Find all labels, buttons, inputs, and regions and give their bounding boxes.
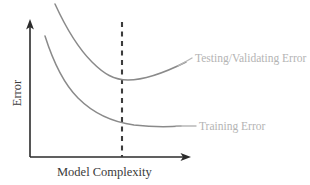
x-axis (30, 153, 191, 161)
training-error-label: Training Error (199, 120, 266, 133)
plot-canvas: Testing/Validating Error Training Error … (0, 0, 310, 185)
testing-error-leader-line (178, 58, 192, 66)
x-axis-label: Model Complexity (57, 165, 153, 179)
testing-error-curve (55, 4, 186, 80)
y-axis (26, 19, 34, 157)
training-error-curve (45, 36, 181, 127)
testing-error-label: Testing/Validating Error (195, 52, 306, 65)
y-axis-label: Error (10, 79, 24, 106)
error-vs-complexity-figure: Testing/Validating Error Training Error … (0, 0, 310, 185)
